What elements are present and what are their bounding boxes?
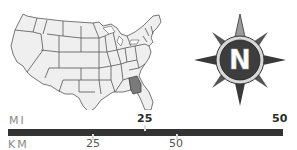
- compass-letter: N: [229, 45, 251, 75]
- km-tick-50: 50: [169, 137, 183, 150]
- mi-tick-50: 50: [272, 112, 287, 125]
- compass-icon: N: [192, 12, 288, 108]
- us-map-outline-icon: [3, 6, 163, 110]
- mi-tick-mark-25: [144, 125, 146, 131]
- km-tick-25: 25: [86, 137, 100, 150]
- compass-rose: N: [192, 12, 288, 108]
- scale-bar: MI 25 50 KM 25 50: [0, 112, 297, 150]
- us-map: [3, 6, 163, 110]
- kilometers-label: KM: [8, 138, 29, 150]
- miles-label: MI: [9, 114, 26, 127]
- mi-tick-25: 25: [137, 112, 152, 125]
